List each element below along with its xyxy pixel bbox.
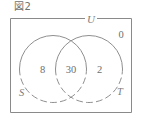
- set-s-label: S: [19, 87, 25, 98]
- venn-diagram-canvas: U S T 8 30 2 0: [0, 0, 142, 126]
- region-count-outside: 0: [118, 29, 123, 40]
- universe-label: U: [87, 13, 96, 25]
- region-count-t-only: 2: [97, 64, 102, 75]
- venn-diagram-figure: 図2 U S T 8 30 2 0: [0, 0, 142, 126]
- set-s-lower-arc-dashed: [20, 69, 87, 102]
- set-s-circle: [20, 36, 87, 103]
- region-count-intersection: 30: [66, 64, 77, 75]
- set-s-upper-arc: [20, 36, 87, 69]
- set-t-label: T: [117, 86, 124, 97]
- region-count-s-only: 8: [40, 64, 45, 75]
